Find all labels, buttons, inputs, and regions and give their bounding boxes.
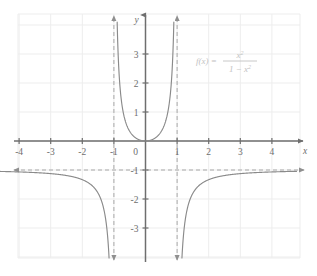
function-curves — [0, 22, 297, 258]
x-tick-label: 1 — [175, 147, 180, 157]
x-axis-label: x — [302, 146, 308, 156]
x-tick-label: -4 — [15, 147, 23, 157]
plot-canvas: -4-3-2-101234321-1-2-3 x y f(x) =x21 − x… — [0, 0, 317, 276]
function-graph-figure: -4-3-2-101234321-1-2-3 x y f(x) =x21 − x… — [0, 0, 317, 276]
curve-branch — [182, 171, 297, 258]
y-axis-label: y — [134, 15, 140, 25]
y-tick-label: -3 — [131, 224, 139, 234]
x-tick-label: 3 — [238, 147, 243, 157]
curve-branch — [0, 171, 109, 258]
y-tick-label: 3 — [134, 50, 139, 60]
equation-prefix: f(x) = — [196, 56, 217, 66]
asymptote-lines — [14, 16, 304, 260]
y-tick-label: 1 — [134, 108, 139, 118]
x-tick-label: -3 — [47, 147, 55, 157]
axes — [14, 15, 303, 262]
x-tick-label: 0 — [133, 147, 138, 157]
x-tick-label: 4 — [270, 147, 275, 157]
y-tick-label: -1 — [131, 166, 139, 176]
x-tick-label: -2 — [78, 147, 86, 157]
y-tick-label: 2 — [134, 79, 139, 89]
equation-denominator: 1 − x2 — [229, 64, 251, 74]
x-tick-label: -1 — [110, 147, 118, 157]
equation-numerator: x2 — [236, 50, 244, 60]
x-tick-label: 2 — [206, 147, 211, 157]
y-tick-label: -2 — [131, 195, 139, 205]
grid-lines — [18, 14, 300, 258]
